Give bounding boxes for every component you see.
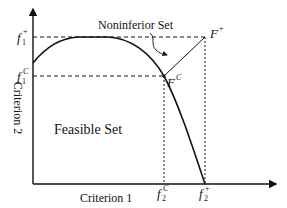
compromise-point-dot: [162, 74, 165, 77]
f1-plus-label: f 1 +: [17, 27, 28, 47]
f2-c-label: f 2 C: [157, 184, 169, 203]
noninferior-pointer-arrow: [150, 33, 167, 55]
svg-text:F: F: [166, 75, 176, 90]
x-axis-label: Criterion 1: [80, 191, 132, 205]
svg-text:1: 1: [22, 77, 26, 86]
y-axis-label: Criterion 2: [11, 82, 25, 134]
svg-text:2: 2: [162, 194, 166, 203]
feasible-set-label: Feasible Set: [54, 122, 122, 137]
svg-text:C: C: [23, 67, 29, 76]
svg-text:C: C: [176, 73, 182, 82]
f1-c-label: f 1 C: [17, 67, 29, 86]
svg-text:+: +: [219, 24, 224, 33]
ideal-point-label: F +: [209, 24, 224, 41]
diagram-svg: Noninferior Set Feasible Set Criterion 1…: [0, 0, 287, 208]
compromise-point-label: F C: [166, 73, 182, 90]
f2-plus-label: f 2 +: [199, 184, 210, 203]
svg-text:+: +: [205, 184, 210, 193]
noninferior-set-label: Noninferior Set: [98, 18, 174, 32]
svg-text:1: 1: [22, 38, 26, 47]
distance-line: [164, 37, 205, 76]
noninferior-curve: [33, 37, 205, 184]
svg-text:F: F: [209, 26, 219, 41]
svg-text:+: +: [23, 27, 28, 36]
diagram-canvas: Noninferior Set Feasible Set Criterion 1…: [0, 0, 287, 208]
svg-text:C: C: [163, 184, 169, 193]
svg-text:2: 2: [204, 194, 208, 203]
